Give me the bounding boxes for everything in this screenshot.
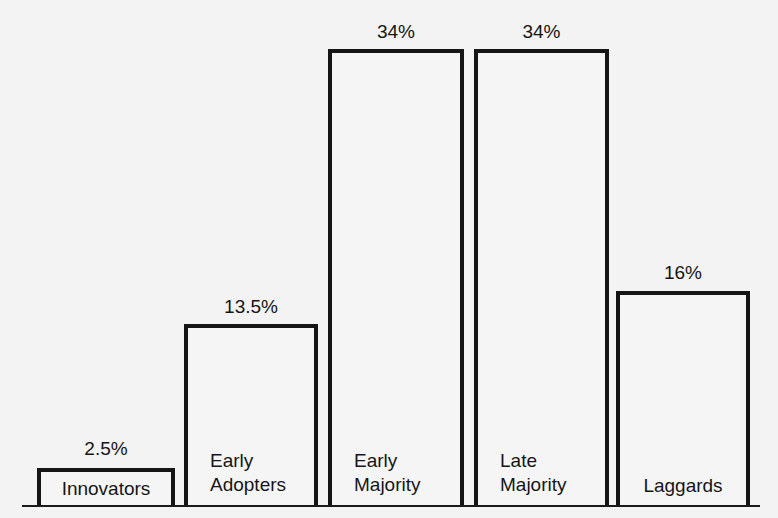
- x-axis-baseline: [22, 505, 760, 507]
- bar-innovators: Innovators: [37, 468, 175, 506]
- bar-laggards: Laggards: [616, 291, 750, 506]
- category-label-late-majority-line2: Majority: [500, 474, 567, 496]
- value-label-late-majority: 34%: [474, 21, 609, 43]
- category-label-early-adopters-line2: Adopters: [210, 474, 286, 496]
- category-label-innovators: Innovators: [41, 478, 171, 500]
- value-label-early-adopters: 13.5%: [184, 296, 318, 318]
- category-label-early-adopters-line1: Early: [210, 450, 253, 472]
- category-label-early-majority-line1: Early: [354, 450, 397, 472]
- category-label-early-majority-line2: Majority: [354, 474, 421, 496]
- category-label-late-majority-line1: Late: [500, 450, 537, 472]
- adoption-bar-chart: 2.5% Innovators 13.5% Early Adopters 34%…: [0, 0, 778, 518]
- bar-late-majority: Late Majority: [474, 49, 609, 506]
- bar-early-adopters: Early Adopters: [184, 324, 318, 506]
- value-label-early-majority: 34%: [328, 21, 464, 43]
- category-label-laggards: Laggards: [620, 475, 746, 497]
- value-label-innovators: 2.5%: [37, 438, 175, 460]
- value-label-laggards: 16%: [616, 262, 750, 284]
- bar-early-majority: Early Majority: [328, 49, 464, 506]
